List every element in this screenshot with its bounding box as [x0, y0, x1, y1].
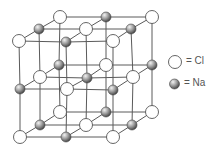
cl-atom — [146, 11, 159, 24]
na-atom — [101, 107, 111, 117]
bond-line — [19, 41, 20, 89]
na-atom — [147, 60, 157, 70]
na-atom — [35, 120, 45, 130]
cl-atom — [54, 11, 67, 24]
legend-label-cl: = Cl — [186, 55, 204, 66]
bond-line — [59, 17, 60, 65]
legend-item-na: = Na — [182, 77, 205, 88]
cl-atom — [13, 35, 26, 48]
bond-line — [132, 77, 133, 125]
bond-line — [86, 29, 87, 78]
na-atom — [101, 12, 111, 22]
na-atom — [82, 73, 92, 83]
bond-line — [39, 29, 40, 77]
na-atom — [61, 37, 71, 47]
na-atom — [126, 24, 136, 34]
legend-symbols — [169, 56, 182, 90]
legend-label-na: = Na — [184, 77, 205, 88]
bond-line — [66, 42, 67, 89]
cl-atom — [146, 106, 159, 119]
bond-line — [86, 78, 87, 125]
cl-atom — [54, 106, 67, 119]
na-atom — [108, 85, 118, 95]
bond-line — [59, 65, 60, 112]
cl-atom — [127, 71, 140, 84]
na-atom — [15, 84, 25, 94]
cl-atom — [80, 23, 93, 36]
cl-atom — [107, 131, 120, 144]
cl-legend-icon — [169, 56, 182, 69]
cl-atom — [80, 119, 93, 132]
lattice-atoms — [13, 11, 159, 144]
bond-line — [131, 29, 133, 77]
cl-atom — [34, 71, 47, 84]
bond-line — [40, 77, 87, 78]
nacl-lattice-diagram — [0, 0, 223, 148]
na-atom — [34, 24, 44, 34]
cl-atom — [100, 59, 113, 72]
cl-atom — [14, 131, 27, 144]
cl-atom — [107, 35, 120, 48]
cl-atom — [61, 83, 74, 96]
legend-item-cl: = Cl — [184, 55, 204, 66]
bond-line — [19, 41, 66, 42]
na-atom — [61, 132, 71, 142]
na-atom — [127, 120, 137, 130]
na-atom — [54, 60, 64, 70]
na-legend-icon — [170, 79, 180, 89]
